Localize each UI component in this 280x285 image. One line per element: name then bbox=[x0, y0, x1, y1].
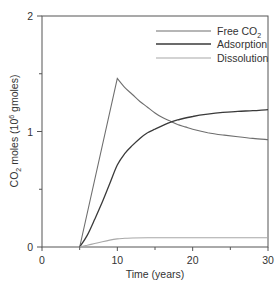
y-axis-label: CO2 moles (106 gmoles) bbox=[8, 75, 22, 188]
x-tick-label: 10 bbox=[111, 254, 123, 266]
plot-frame bbox=[42, 16, 268, 247]
x-tick-label: 20 bbox=[187, 254, 199, 266]
x-axis-label: Time (years) bbox=[126, 268, 185, 280]
series-line-adsorption bbox=[80, 110, 268, 247]
legend-item: Dissolution bbox=[156, 52, 269, 64]
series-line-free-co2 bbox=[80, 78, 268, 247]
legend-item: Adsorption bbox=[156, 38, 267, 50]
legend-item: Free CO2 bbox=[156, 25, 261, 39]
x-tick-label: 30 bbox=[262, 254, 274, 266]
legend: Free CO2AdsorptionDissolution bbox=[156, 25, 269, 64]
legend-label: Free CO2 bbox=[217, 25, 261, 39]
y-tick-label: 2 bbox=[27, 10, 33, 22]
series-line-dissolution bbox=[80, 238, 268, 247]
y-tick-label: 0 bbox=[27, 241, 33, 253]
x-tick-label: 0 bbox=[39, 254, 45, 266]
y-tick-label: 1 bbox=[27, 126, 33, 138]
data-series bbox=[80, 78, 268, 247]
legend-label: Adsorption bbox=[217, 38, 267, 50]
line-chart: 0102030012 Free CO2AdsorptionDissolution… bbox=[0, 0, 280, 285]
legend-label: Dissolution bbox=[217, 52, 269, 64]
